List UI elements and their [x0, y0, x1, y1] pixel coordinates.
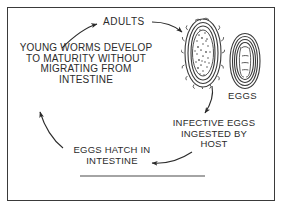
label-infective-eggs-ingested: INFECTIVE EGGS INGESTED BY HOST	[165, 118, 263, 150]
label-young-worms-develop: YOUNG WORMS DEVELOP TO MATURITY WITHOUT …	[14, 43, 158, 85]
label-adults: ADULTS	[103, 17, 145, 28]
arrow-hatch-to-young-worms	[40, 112, 63, 148]
arrow-eggs-to-infective-eggs	[205, 86, 213, 113]
arrow-adults-to-eggs	[152, 22, 182, 32]
life-cycle-figure: ADULTS YOUNG WORMS DEVELOP TO MATURITY W…	[0, 0, 284, 211]
label-eggs: EGGS	[228, 91, 257, 102]
infective-egg-illustration	[227, 32, 263, 90]
fertilized-egg-illustration	[181, 17, 225, 89]
label-eggs-hatch-in-intestine: EGGS HATCH IN INTESTINE	[58, 145, 166, 166]
